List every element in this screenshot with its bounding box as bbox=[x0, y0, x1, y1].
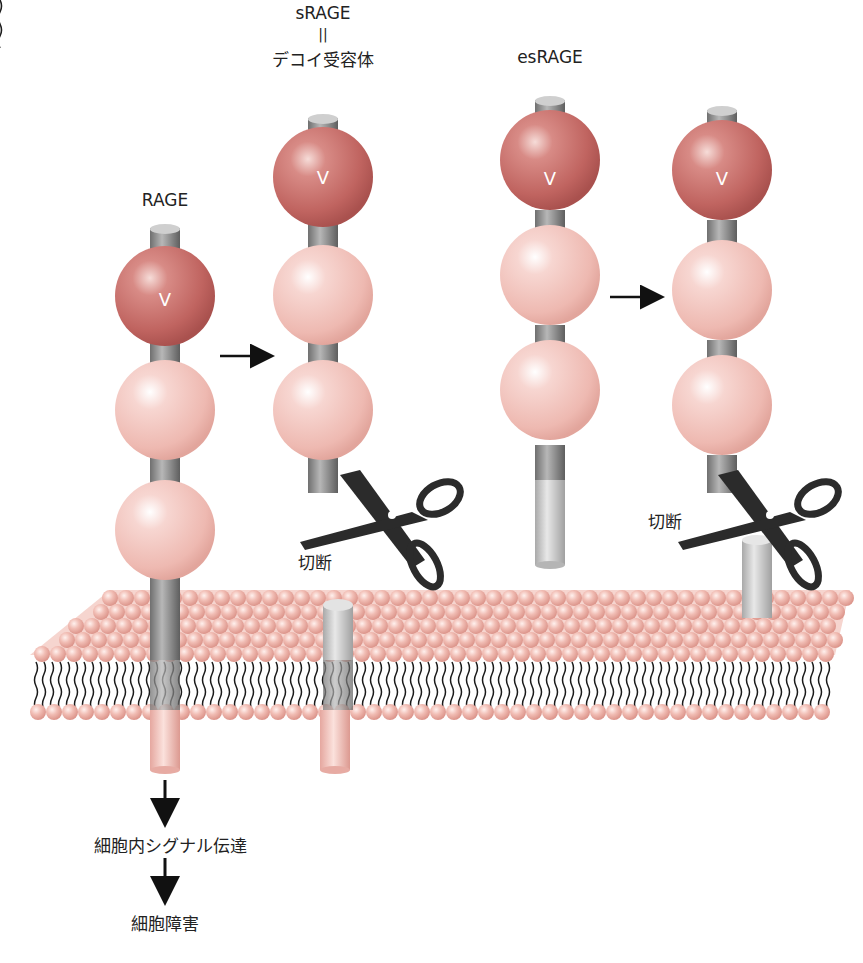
membrane-stub bbox=[323, 605, 353, 660]
label-decoy-receptor: デコイ受容体 bbox=[272, 46, 374, 71]
label-srage-equals: || bbox=[318, 26, 327, 42]
c1-domain bbox=[115, 360, 215, 460]
membrane-stub bbox=[742, 540, 772, 618]
label-cleavage: 切断 bbox=[648, 508, 682, 533]
c1-domain bbox=[672, 240, 772, 340]
esrage-tail bbox=[535, 480, 565, 565]
c2-domain bbox=[500, 340, 600, 440]
domain-letter-v: V bbox=[159, 289, 171, 310]
receptors-layer bbox=[0, 0, 863, 963]
c2-domain bbox=[273, 360, 373, 460]
domain-letter-v: V bbox=[716, 168, 728, 189]
label-esrage: esRAGE bbox=[517, 47, 583, 67]
c2-domain bbox=[672, 355, 772, 455]
label-rage: RAGE bbox=[142, 190, 188, 210]
label-intracellular-signaling: 細胞内シグナル伝達 bbox=[94, 832, 247, 857]
label-cleavage: 切断 bbox=[298, 549, 332, 574]
c2-domain bbox=[115, 480, 215, 580]
domain-letter-v: V bbox=[544, 168, 556, 189]
v-domain bbox=[500, 110, 600, 210]
c1-domain bbox=[273, 245, 373, 345]
cytoplasmic-tail bbox=[150, 710, 180, 770]
c1-domain bbox=[500, 225, 600, 325]
receptor-esrage bbox=[500, 96, 600, 569]
label-srage: sRAGE bbox=[295, 3, 350, 23]
domain-letter-v: V bbox=[317, 167, 329, 188]
label-cell-damage: 細胞障害 bbox=[131, 910, 199, 935]
cytoplasmic-tail bbox=[320, 710, 350, 770]
receptor-srage bbox=[273, 114, 373, 774]
